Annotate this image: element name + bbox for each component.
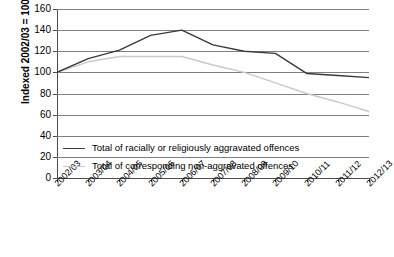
chart-legend: Total of racially or religiously aggrava…	[63, 139, 331, 175]
legend-item-label: Total of racially or religiously aggrava…	[92, 143, 299, 153]
y-tick-label-80: 80	[0, 89, 51, 99]
legend-item-non-aggravated[interactable]: Total of corresponding non-aggravated of…	[63, 157, 331, 175]
legend-swatch-icon	[63, 148, 85, 149]
y-tick-label-160: 160	[0, 4, 51, 14]
y-tick-label-120: 120	[0, 46, 51, 56]
legend-swatch-icon	[63, 166, 85, 167]
y-tick-label-0: 0	[0, 173, 51, 183]
legend-item-label: Total of corresponding non-aggravated of…	[92, 161, 293, 171]
x-tick-label-2012-13: 2012/13	[365, 159, 394, 188]
y-tick-label-100: 100	[0, 67, 51, 77]
y-tick-label-40: 40	[0, 131, 51, 141]
y-tick-label-60: 60	[0, 110, 51, 120]
series-line-non-aggravated	[57, 57, 369, 112]
series-line-aggravated	[57, 30, 369, 78]
y-tick-label-20: 20	[0, 152, 51, 162]
y-tick-label-140: 140	[0, 25, 51, 35]
legend-item-aggravated[interactable]: Total of racially or religiously aggrava…	[63, 139, 331, 157]
